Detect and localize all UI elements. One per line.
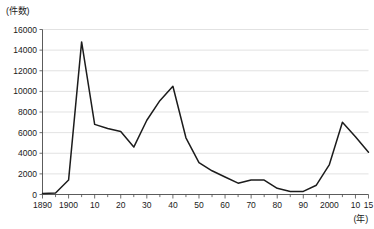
x-tick-label: 30 — [142, 200, 152, 210]
x-tick-label: 1890 — [33, 200, 52, 210]
y-tick-label: 8000 — [18, 107, 37, 117]
x-tick-label: 10 — [351, 200, 361, 210]
x-tick-label: 80 — [272, 200, 282, 210]
x-tick-label: 50 — [194, 200, 204, 210]
y-axis-tick-labels: 0200040006000800010000120001400016000 — [13, 25, 37, 200]
x-tick-label: 70 — [246, 200, 256, 210]
x-tick-label: 15 — [364, 200, 374, 210]
x-axis-tick-labels: 1890190010203040506070809020001015 — [33, 200, 373, 210]
x-tick-label: 2000 — [320, 200, 339, 210]
y-tick-label: 12000 — [13, 66, 37, 76]
y-tick-label: 2000 — [18, 169, 37, 179]
series-line — [43, 42, 369, 194]
y-tick-label: 4000 — [18, 148, 37, 158]
x-tick-label: 40 — [168, 200, 178, 210]
x-tick-label: 10 — [90, 200, 100, 210]
x-tick-label: 60 — [220, 200, 230, 210]
y-tick-label: 10000 — [13, 86, 37, 96]
x-tick-label: 90 — [299, 200, 309, 210]
chart-container: (件数) (年) 0200040006000800010000120001400… — [0, 0, 374, 229]
gridlines — [40, 30, 369, 195]
y-tick-label: 14000 — [13, 45, 37, 55]
y-tick-label: 6000 — [18, 128, 37, 138]
x-axis-tick-marks — [43, 195, 369, 199]
line-chart-plot: 0200040006000800010000120001400016000 18… — [0, 0, 374, 229]
x-tick-label: 20 — [116, 200, 126, 210]
data-series — [43, 42, 369, 194]
y-tick-label: 0 — [32, 190, 37, 200]
x-tick-label: 1900 — [59, 200, 78, 210]
y-tick-label: 16000 — [13, 25, 37, 35]
